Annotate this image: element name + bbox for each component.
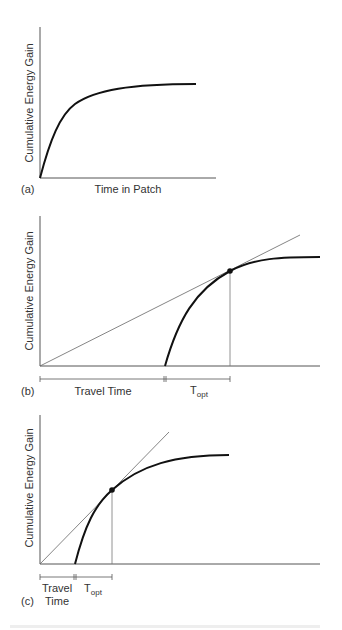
panel-a: Cumulative Energy Gain Time in Patch (a) xyxy=(21,27,216,195)
panel-label: (b) xyxy=(21,385,34,397)
travel-label-line2: Time xyxy=(45,595,69,607)
interval-bracket xyxy=(40,574,112,580)
gain-curve xyxy=(40,84,196,178)
tangent-point xyxy=(109,487,115,493)
panel-label: (a) xyxy=(21,183,34,195)
tangent-point xyxy=(227,268,233,274)
y-axis-label: Cumulative Energy Gain xyxy=(23,231,35,350)
travel-time-label: Travel Time xyxy=(74,385,131,397)
caption-fragment xyxy=(10,625,320,628)
panel-c: Cumulative Energy Gain Travel Time Topt … xyxy=(21,415,320,607)
interval-bracket xyxy=(40,376,230,382)
panel-label: (c) xyxy=(21,595,34,607)
travel-label-line1: Travel xyxy=(42,582,72,594)
y-axis-label: Cumulative Energy Gain xyxy=(23,43,35,162)
topt-label: Topt xyxy=(190,384,209,399)
gain-curve xyxy=(165,257,320,366)
tangent-line xyxy=(40,235,300,366)
panel-b: Cumulative Energy Gain Travel Time Topt … xyxy=(21,216,320,399)
foraging-diagram: Cumulative Energy Gain Time in Patch (a)… xyxy=(0,0,342,630)
topt-label: Topt xyxy=(84,582,103,597)
x-axis-label: Time in Patch xyxy=(95,183,162,195)
gain-curve xyxy=(75,455,229,564)
y-axis-label: Cumulative Energy Gain xyxy=(23,428,35,547)
